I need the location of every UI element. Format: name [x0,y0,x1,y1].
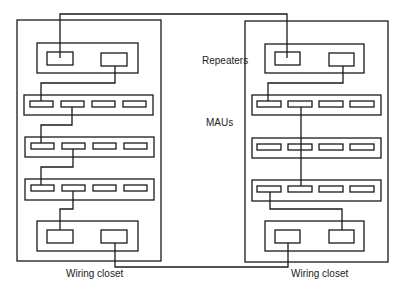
token-ring-diagram [0,0,404,296]
left-mau-2 [25,137,154,157]
left-wiring-closet [17,20,161,261]
left-wiring-closet-label: Wiring closet [66,268,123,279]
right-top-repeater [265,44,364,73]
left-bottom-repeater [37,221,138,251]
left-top-repeater [37,43,138,73]
right-mau-1 [252,95,381,115]
bottom-trunk-link [115,243,288,267]
right-mau-3 [252,180,381,201]
left-mau-3 [25,179,154,200]
right-wiring-closet-label: Wiring closet [291,268,348,279]
right-bottom-repeater [265,221,364,251]
maus-label: MAUs [206,117,233,128]
right-wiring-closet [245,21,388,262]
left-mau-1 [24,95,153,115]
right-mau-2 [252,138,381,158]
repeaters-label: Repeaters [202,55,248,66]
